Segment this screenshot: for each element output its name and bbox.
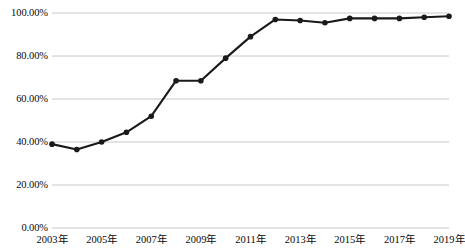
x-axis-tick-label: 2013年 bbox=[285, 234, 316, 246]
x-axis-tick-label: 2003年 bbox=[37, 234, 68, 246]
x-axis-tick-label: 2015年 bbox=[334, 234, 365, 246]
x-axis-tick-label: 2017年 bbox=[384, 234, 415, 246]
x-axis-tick-label: 2011年 bbox=[235, 234, 266, 246]
x-axis-tick-label: 2019年 bbox=[434, 234, 465, 246]
x-axis-tick-label: 2007年 bbox=[136, 234, 167, 246]
x-axis-tick-label: 2005年 bbox=[86, 234, 117, 246]
x-axis-tick-label: 2009年 bbox=[185, 234, 216, 246]
